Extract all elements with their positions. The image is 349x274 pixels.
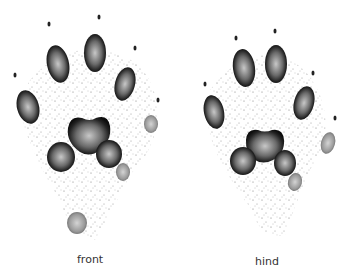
front-paw-print [13, 15, 160, 241]
hind-claw-2 [274, 29, 277, 34]
front-claw-5 [157, 98, 160, 103]
front-pad-right-lobe [96, 140, 122, 168]
hind-claw-4 [204, 82, 207, 87]
front-carpal-pad [67, 212, 87, 234]
hind-claw-5 [334, 116, 337, 121]
front-pad-small-lobe [116, 163, 130, 181]
front-pad-left-lobe [47, 142, 75, 172]
hind-pad-left-lobe [230, 147, 256, 175]
front-label: front [77, 253, 103, 266]
hind-claw-1 [235, 36, 238, 41]
front-claw-4 [14, 73, 17, 78]
hind-pad-right-lobe [274, 150, 296, 176]
front-toe-2 [84, 34, 106, 72]
hind-label: hind [255, 255, 279, 268]
front-dewclaw [144, 115, 158, 133]
paw-prints-diagram [0, 0, 349, 274]
front-claw-3 [134, 46, 137, 51]
hind-claw-3 [312, 71, 315, 76]
hind-toe-2 [265, 45, 287, 83]
hind-paw-print [201, 29, 338, 236]
front-claw-2 [98, 15, 101, 20]
front-claw-1 [48, 22, 51, 27]
